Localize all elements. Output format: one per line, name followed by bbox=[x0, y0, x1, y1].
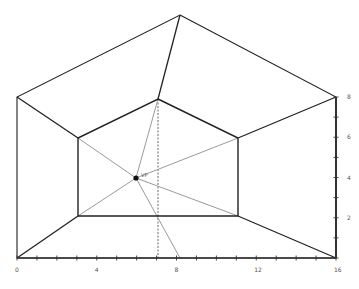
vp-label: VP bbox=[141, 172, 147, 178]
y-axis-label: 8 bbox=[347, 93, 351, 100]
x-axis-label: 8 bbox=[175, 266, 179, 273]
vp-dot bbox=[133, 175, 138, 180]
connector-line bbox=[17, 216, 78, 258]
x-axis-label: 16 bbox=[334, 266, 342, 273]
connector-line bbox=[158, 15, 180, 99]
connector-line bbox=[238, 97, 336, 138]
x-axis-label: 0 bbox=[15, 266, 19, 273]
guide-line bbox=[78, 138, 136, 178]
vanishing-point bbox=[133, 175, 138, 180]
outer-pentagon bbox=[17, 15, 336, 258]
axes bbox=[17, 97, 339, 261]
guide-line bbox=[136, 178, 238, 216]
connector-line bbox=[238, 216, 336, 258]
connector-lines bbox=[17, 15, 336, 258]
y-axis-label: 4 bbox=[347, 174, 351, 181]
guide-line bbox=[136, 138, 238, 178]
perspective-diagram bbox=[0, 0, 359, 289]
connector-line bbox=[17, 97, 78, 138]
guide-lines bbox=[78, 99, 238, 258]
guide-line bbox=[78, 178, 136, 216]
guide-line bbox=[136, 99, 158, 178]
y-axis-label: 2 bbox=[347, 214, 351, 221]
outer-pentagon-shape bbox=[17, 15, 336, 258]
x-axis-label: 12 bbox=[254, 266, 262, 273]
x-axis-label: 4 bbox=[95, 266, 99, 273]
y-axis-label: 6 bbox=[347, 133, 351, 140]
